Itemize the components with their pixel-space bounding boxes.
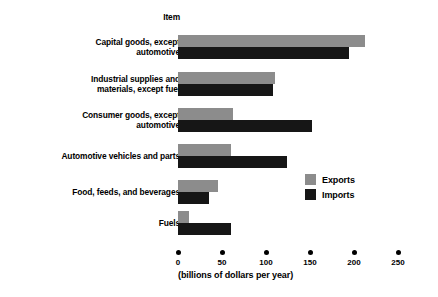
x-tick-dot-200	[352, 250, 357, 255]
legend-label-imports: Imports	[322, 190, 354, 200]
x-tick-label-250: 250	[378, 258, 418, 267]
x-tick-label-150: 150	[290, 258, 330, 267]
legend: Exports Imports	[305, 172, 355, 202]
x-tick-label-0: 0	[158, 258, 198, 267]
x-tick-label-50: 50	[202, 258, 242, 267]
x-tick-dot-150	[308, 250, 313, 255]
x-axis: 050100150200250	[0, 0, 438, 297]
x-tick-dot-100	[264, 250, 269, 255]
bar-chart: Item Capital goods, except automotive In…	[0, 0, 438, 297]
x-tick-label-100: 100	[246, 258, 286, 267]
legend-item-imports: Imports	[305, 187, 355, 202]
x-tick-dot-50	[220, 250, 225, 255]
x-axis-caption: (billions of dollars per year)	[178, 270, 293, 280]
legend-item-exports: Exports	[305, 172, 355, 187]
x-tick-dot-0	[176, 250, 181, 255]
legend-swatch-exports	[305, 174, 316, 185]
x-tick-dot-250	[396, 250, 401, 255]
legend-swatch-imports	[305, 189, 316, 200]
legend-label-exports: Exports	[322, 175, 355, 185]
x-tick-label-200: 200	[334, 258, 374, 267]
